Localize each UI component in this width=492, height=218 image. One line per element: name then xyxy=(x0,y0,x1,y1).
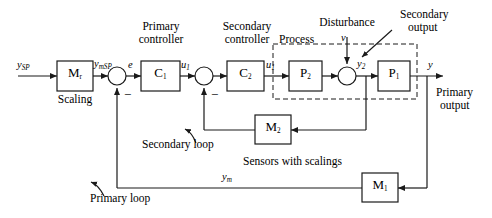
signal-label-measured-primary: ym xyxy=(222,171,232,183)
annotation-primary-output-line2: output xyxy=(440,99,492,111)
signal-label-setpoint: ySP xyxy=(17,59,30,71)
block-label-scaling: Mr xyxy=(57,66,93,80)
annotation-sensors: Sensors with scalings xyxy=(243,155,391,167)
block-label-primary-controller: C1 xyxy=(141,66,180,80)
signal-label-primary-output: y xyxy=(428,59,433,71)
block-label-process-inner: P2 xyxy=(289,66,322,80)
annotation-process: Process xyxy=(279,33,339,45)
annotation-secondary-output-line2: output xyxy=(408,21,486,33)
sign-minus-secondary: − xyxy=(211,88,218,102)
signal-label-disturbance: v xyxy=(341,32,346,44)
block-label-sensor-secondary: M2 xyxy=(255,120,291,134)
block-caption-primary-controller-line2: controller xyxy=(118,33,204,45)
block-label-secondary-controller: C2 xyxy=(227,66,264,80)
annotation-primary-loop: Primary loop xyxy=(90,192,188,204)
sign-minus-primary: − xyxy=(124,88,131,102)
summing-junction-secondary xyxy=(195,67,213,85)
signal-label-scaled-setpoint: ymSP xyxy=(94,58,112,70)
annotation-secondary-loop: Secondary loop xyxy=(142,138,254,150)
signal-label-secondary-output: y2 xyxy=(357,58,365,70)
annotation-disturbance: Disturbance xyxy=(301,16,393,28)
signal-label-error: e xyxy=(128,59,133,71)
block-caption-primary-controller-line1: Primary xyxy=(118,20,204,32)
signal-label-secondary-control-output: u1 xyxy=(266,59,275,71)
annotation-secondary-output-line1: Secondary xyxy=(400,8,486,20)
block-caption-scaling: Scaling xyxy=(35,93,115,105)
summing-junction-disturbance xyxy=(338,67,356,85)
block-label-sensor-primary: M1 xyxy=(362,178,398,192)
annotation-primary-output-line1: Primary xyxy=(436,86,492,98)
block-caption-secondary-controller-line1: Secondary xyxy=(200,20,294,32)
block-diagram-canvas: Mr Scaling C1 Primary controller C2 Seco… xyxy=(0,0,492,218)
block-label-process-outer: P1 xyxy=(378,66,410,80)
signal-label-primary-control-output: u1 xyxy=(181,59,190,71)
